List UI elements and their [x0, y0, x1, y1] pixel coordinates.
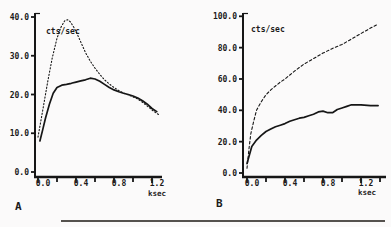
y-tick-label: 30.0 [10, 52, 29, 61]
y-axis-unit-label: cts/sec [251, 25, 285, 34]
y-tick-label: 100.0 [213, 12, 237, 21]
series-solid-curve [247, 105, 378, 164]
chart-panel-b: 0.020.040.060.080.0100.00.00.40.81.2cts/… [213, 12, 386, 197]
y-tick-label: 40.0 [218, 106, 237, 115]
x-tick-label: 1.2 [150, 179, 165, 188]
x-tick-label: 0.8 [112, 179, 127, 188]
scanned-figure-page: 0.010.020.030.040.00.00.40.81.2cts/secks… [0, 0, 391, 227]
y-tick-label: 10.0 [10, 129, 29, 138]
figure-svg: 0.010.020.030.040.00.00.40.81.2cts/secks… [0, 0, 391, 227]
y-tick-label: 80.0 [218, 44, 237, 53]
x-tick-label: 0.4 [283, 179, 298, 188]
y-tick-label: 60.0 [218, 75, 237, 84]
x-tick-label: 0.4 [74, 179, 89, 188]
separator-rule [61, 220, 385, 222]
x-tick-label: 0.0 [245, 179, 260, 188]
x-axis-unit-label: ksec [358, 188, 376, 197]
x-axis-unit-label: ksec [148, 189, 166, 198]
y-axis-unit-label: cts/sec [46, 27, 80, 36]
y-tick-label: 20.0 [10, 91, 29, 100]
x-tick-label: 1.2 [359, 179, 374, 188]
panel-label-b: B [216, 197, 223, 210]
y-tick-label: 0.0 [223, 169, 238, 178]
series-dashed-curve [247, 24, 378, 168]
series-solid-curve [40, 78, 157, 141]
x-tick-label: 0.8 [321, 179, 336, 188]
y-tick-label: 0.0 [15, 168, 30, 177]
y-tick-label: 20.0 [218, 138, 237, 147]
chart-panel-a: 0.010.020.030.040.00.00.40.81.2cts/secks… [10, 13, 166, 198]
panel-label-a: A [15, 200, 22, 213]
series-dotted-curve [38, 20, 159, 137]
y-tick-label: 40.0 [10, 13, 29, 22]
x-tick-label: 0.0 [36, 179, 51, 188]
